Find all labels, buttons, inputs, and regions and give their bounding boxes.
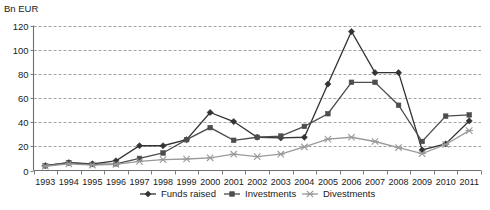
- x-tick-label: 1997: [129, 177, 149, 187]
- data-point-x-marker: [159, 156, 167, 162]
- x-tick-label: 1998: [153, 177, 173, 187]
- x-tick-label: 2011: [460, 177, 479, 187]
- data-point-square-marker: [373, 80, 378, 85]
- data-point-diamond-marker: [301, 134, 307, 140]
- data-point-square-marker: [302, 124, 307, 129]
- x-tick-label: 2003: [271, 177, 291, 187]
- data-point-square-marker: [230, 192, 235, 197]
- x-tick-label: 2010: [436, 177, 456, 187]
- data-point-x-marker: [206, 155, 214, 161]
- legend-item-investments[interactable]: Investments: [224, 188, 296, 199]
- legend-label: Funds raised: [161, 188, 216, 199]
- y-tick-label: 120: [13, 21, 29, 32]
- x-tick-label: 1995: [82, 177, 102, 187]
- data-point-square-marker: [396, 103, 401, 108]
- x-tick-label: 1996: [106, 177, 126, 187]
- data-point-x-marker: [348, 134, 356, 140]
- series-funds-raised: [42, 28, 472, 168]
- legend-item-funds-raised[interactable]: Funds raised: [140, 188, 216, 199]
- data-point-square-marker: [326, 111, 331, 116]
- data-point-square-marker: [443, 114, 448, 119]
- data-point-x-marker: [395, 144, 403, 150]
- chart-container: Bn EUR 020406080100120 19931994199519961…: [0, 0, 490, 210]
- y-tick-label: 60: [18, 93, 29, 104]
- data-point-diamond-marker: [145, 191, 151, 197]
- chart-legend: Funds raisedInvestmentsDivestments: [140, 188, 376, 199]
- x-tick-label: 1999: [177, 177, 197, 187]
- x-tick-label: 2007: [365, 177, 385, 187]
- data-point-square-marker: [349, 80, 354, 85]
- x-tick-label: 2004: [294, 177, 314, 187]
- data-series: [41, 28, 473, 169]
- data-point-square-marker: [231, 138, 236, 143]
- line-chart: Bn EUR 020406080100120 19931994199519961…: [0, 0, 490, 210]
- data-point-x-marker: [301, 144, 309, 150]
- y-axis-tick-labels: 020406080100120: [13, 21, 29, 177]
- x-axis-tick-marks: [35, 171, 482, 175]
- x-tick-label: 2009: [412, 177, 432, 187]
- data-point-x-marker: [371, 138, 379, 144]
- data-point-square-marker: [184, 137, 189, 142]
- data-point-square-marker: [420, 139, 425, 144]
- data-point-diamond-marker: [160, 143, 166, 149]
- legend-label: Investments: [245, 188, 296, 199]
- series-investments: [43, 80, 472, 168]
- data-point-x-marker: [253, 153, 261, 159]
- x-tick-label: 2006: [341, 177, 361, 187]
- data-point-diamond-marker: [136, 143, 142, 149]
- y-tick-label: 100: [13, 45, 29, 56]
- x-tick-label: 2005: [318, 177, 338, 187]
- data-point-diamond-marker: [325, 81, 331, 87]
- y-tick-label: 40: [18, 117, 29, 128]
- x-tick-label: 2000: [200, 177, 220, 187]
- data-point-x-marker: [183, 156, 191, 162]
- data-point-square-marker: [161, 151, 166, 156]
- series-divestments: [41, 127, 473, 169]
- data-point-x-marker: [306, 191, 314, 197]
- data-point-square-marker: [279, 134, 284, 139]
- y-axis-unit-label: Bn EUR: [4, 3, 38, 14]
- x-tick-label: 2001: [224, 177, 244, 187]
- data-point-square-marker: [208, 125, 213, 130]
- y-tick-label: 80: [18, 69, 29, 80]
- data-point-diamond-marker: [348, 28, 354, 34]
- legend-item-divestments[interactable]: Divestments: [302, 188, 376, 199]
- data-point-x-marker: [324, 136, 332, 142]
- x-tick-label: 1994: [59, 177, 79, 187]
- data-point-x-marker: [277, 151, 285, 157]
- x-tick-label: 2002: [247, 177, 267, 187]
- data-point-diamond-marker: [372, 70, 378, 76]
- x-tick-label: 1993: [35, 177, 55, 187]
- data-point-square-marker: [255, 135, 260, 140]
- gridlines: [31, 27, 482, 172]
- y-tick-label: 0: [23, 166, 28, 177]
- legend-label: Divestments: [323, 188, 376, 199]
- y-tick-label: 20: [18, 141, 29, 152]
- data-point-x-marker: [230, 151, 238, 157]
- x-tick-label: 2008: [389, 177, 409, 187]
- data-point-square-marker: [467, 113, 472, 118]
- x-axis-tick-labels: 1993199419951996199719981999200020012002…: [35, 177, 479, 187]
- data-point-x-marker: [465, 127, 473, 133]
